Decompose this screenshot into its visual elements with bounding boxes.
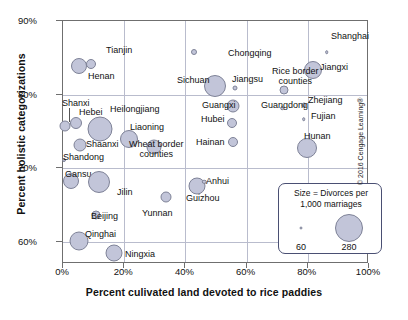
- legend-bubble-small: [300, 227, 303, 230]
- legend-title: Size = Divorces per 1,000 marriages: [279, 188, 383, 210]
- y-tick-mark: [56, 241, 62, 242]
- y-tick-label: 80%: [3, 88, 37, 99]
- data-bubble: [302, 118, 306, 122]
- gridline-horizontal: [63, 168, 367, 169]
- data-bubble: [227, 118, 237, 128]
- size-legend: Size = Divorces per 1,000 marriages 60 2…: [278, 183, 382, 254]
- data-point-label: Jilin: [117, 187, 133, 197]
- y-tick-mark: [56, 167, 62, 168]
- label-leader-line: [69, 108, 70, 122]
- data-bubble: [70, 117, 82, 129]
- data-point-label: Shandong: [63, 152, 104, 162]
- data-point-label: Liaoning: [130, 122, 164, 132]
- data-point-label: Chongqing: [228, 48, 272, 58]
- gridline-vertical: [185, 21, 186, 262]
- data-bubble: [86, 59, 96, 69]
- legend-title-line1: Size = Divorces per: [294, 188, 368, 198]
- x-tick-mark: [368, 263, 369, 268]
- data-bubble: [88, 116, 113, 141]
- data-point-label: Guangdong: [261, 100, 308, 110]
- data-point-label: Hainan: [196, 137, 225, 147]
- x-tick-mark: [123, 263, 124, 268]
- bubble-chart-figure: Percent holistic categorizations 90%80%7…: [0, 0, 408, 320]
- copyright-credit: © 2016 Cengage Learning®: [357, 75, 364, 185]
- data-bubble: [228, 137, 238, 147]
- data-point-label: Beijing: [91, 211, 118, 221]
- data-point-label: Jiangxi: [320, 62, 348, 72]
- data-point-label: Anhui: [206, 176, 229, 186]
- data-point-label: Hunan: [304, 131, 331, 141]
- data-point-label: Henan: [88, 71, 115, 81]
- x-tick-mark: [62, 263, 63, 268]
- y-axis-title: Percent holistic categorizations: [15, 34, 27, 234]
- y-tick-label: 90%: [3, 15, 37, 26]
- legend-title-line2: 1,000 marriages: [300, 199, 361, 209]
- x-tick-mark: [184, 263, 185, 268]
- legend-bubble-large: [335, 214, 363, 242]
- data-bubble: [279, 85, 288, 94]
- y-tick-mark: [56, 20, 62, 21]
- data-point-label: Yunnan: [142, 208, 173, 218]
- y-tick-label: 60%: [3, 235, 37, 246]
- x-tick-mark: [307, 263, 308, 268]
- data-point-label: Ningxia: [125, 249, 155, 259]
- data-bubble: [161, 191, 172, 202]
- legend-value-small: 60: [281, 242, 321, 252]
- data-point-label: Guangxi: [202, 100, 236, 110]
- data-point-label: Guizhou: [186, 193, 220, 203]
- data-bubble: [297, 138, 317, 158]
- y-tick-label: 70%: [3, 162, 37, 173]
- data-point-label: Zhejiang: [308, 95, 343, 105]
- legend-value-large: 280: [329, 242, 369, 252]
- data-bubble: [88, 171, 110, 193]
- data-bubble: [191, 49, 197, 55]
- x-axis-title: Percent culivated land devoted to rice p…: [30, 286, 378, 298]
- data-point-label: Wheat bordercounties: [129, 139, 184, 159]
- data-point-label: Shaanxi: [86, 139, 119, 149]
- data-point-label: Hubei: [201, 114, 225, 124]
- data-bubble: [74, 139, 87, 152]
- data-bubble: [71, 58, 87, 74]
- data-bubble: [106, 245, 123, 262]
- data-point-label: Fujian: [311, 111, 336, 121]
- data-point-label: Sichuan: [177, 75, 210, 85]
- data-point-label: Qinghai: [85, 229, 116, 239]
- data-bubble: [232, 85, 237, 90]
- data-point-label: Jiangsu: [232, 74, 263, 84]
- data-point-label: Tianjin: [106, 45, 132, 55]
- x-tick-mark: [246, 263, 247, 268]
- data-bubble: [325, 51, 329, 55]
- data-point-label: Rice bordercounties: [272, 66, 319, 86]
- data-point-label: Heilongjiang: [110, 104, 160, 114]
- y-tick-mark: [56, 94, 62, 95]
- data-point-label: Shanghai: [331, 31, 369, 41]
